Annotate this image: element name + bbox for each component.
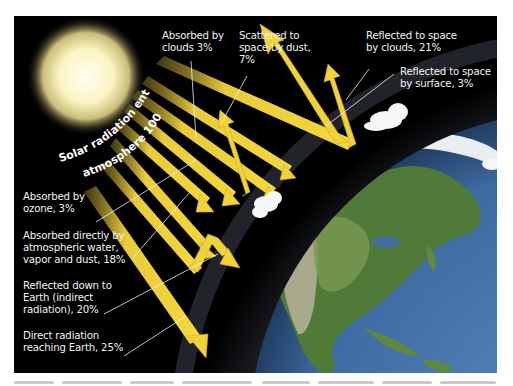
label-line: Earth (indirect: [23, 292, 112, 304]
label-reflected-by-surface: Reflected to space by surface, 3%: [400, 66, 491, 90]
diagram-frame: Solar radiation entering atmosphere 100%…: [14, 16, 497, 373]
label-line: Scattered to: [239, 30, 311, 42]
label-line: 7%: [239, 54, 311, 66]
label-absorbed-by-water-vapor: Absorbed directly by atmospheric water, …: [23, 230, 125, 266]
label-line: atmospheric water,: [23, 242, 125, 254]
label-line: ozone, 3%: [23, 203, 85, 215]
label-line: Reflected to space: [366, 30, 457, 42]
label-line: radiation), 20%: [23, 304, 112, 316]
label-reflected-down-to-earth: Reflected down to Earth (indirect radiat…: [23, 280, 112, 316]
label-scattered-by-dust: Scattered to space by dust, 7%: [239, 30, 311, 66]
label-line: vapor and dust, 18%: [23, 254, 125, 266]
label-line: Reflected down to: [23, 280, 112, 292]
label-line: Absorbed by: [23, 191, 85, 203]
label-line: Reflected to space: [400, 66, 491, 78]
label-line: Absorbed by: [162, 30, 224, 42]
label-direct-radiation: Direct radiation reaching Earth, 25%: [23, 330, 123, 354]
label-line: reaching Earth, 25%: [23, 342, 123, 354]
label-reflected-by-clouds: Reflected to space by clouds, 21%: [366, 30, 457, 54]
label-line: clouds 3%: [162, 42, 224, 54]
label-absorbed-by-clouds: Absorbed by clouds 3%: [162, 30, 224, 54]
label-line: by surface, 3%: [400, 78, 491, 90]
label-line: space by dust,: [239, 42, 311, 54]
label-line: Direct radiation: [23, 330, 123, 342]
label-absorbed-by-ozone: Absorbed by ozone, 3%: [23, 191, 85, 215]
label-line: by clouds, 21%: [366, 42, 457, 54]
label-line: Absorbed directly by: [23, 230, 125, 242]
caption-cutoff: [0, 377, 513, 386]
